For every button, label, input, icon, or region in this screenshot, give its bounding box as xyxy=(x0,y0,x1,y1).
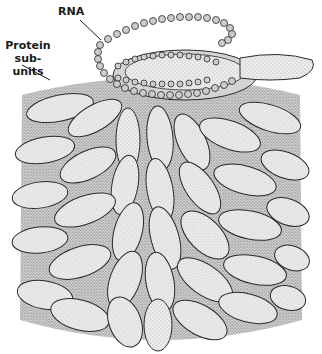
rna-label: RNA xyxy=(58,5,84,18)
protein-label-line2: sub-units xyxy=(3,52,53,78)
protein-label-line1: Protein xyxy=(3,39,53,52)
protein-subunits-label: Protein sub-units xyxy=(3,39,53,78)
